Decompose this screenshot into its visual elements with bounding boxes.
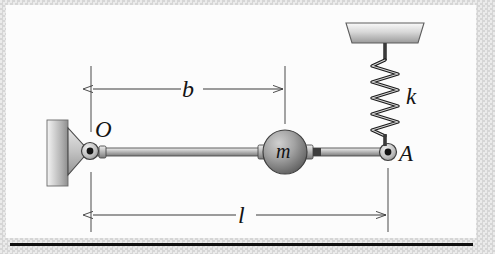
horizontal-rule <box>10 243 473 246</box>
coil-spring-icon <box>372 43 398 146</box>
figure-root: O m A k b l <box>0 0 495 254</box>
dimension-label-l: l <box>238 203 245 227</box>
mechanics-diagram <box>0 0 495 254</box>
mass-label-m: m <box>276 141 290 161</box>
pivot-label-o: O <box>95 118 112 141</box>
point-label-a: A <box>399 142 413 165</box>
pin-joint-icon-o <box>82 143 99 160</box>
dimension-label-b: b <box>182 77 194 101</box>
spring-constant-label-k: k <box>406 85 416 108</box>
rigid-rod <box>90 145 388 159</box>
pin-joint-icon-a <box>380 144 397 161</box>
ceiling-support-icon <box>346 23 424 43</box>
wall-hatch-icon <box>47 120 68 186</box>
